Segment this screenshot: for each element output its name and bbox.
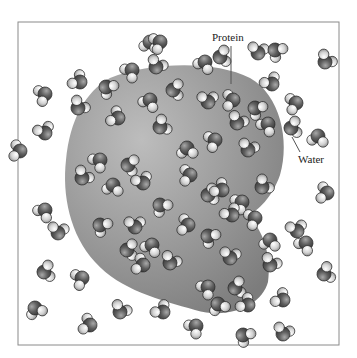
hydrogen-atom — [270, 241, 280, 251]
hydrogen-atom — [48, 222, 58, 232]
hydrogen-atom — [129, 155, 139, 165]
water-label: Water — [298, 153, 324, 165]
hydrogen-atom — [177, 225, 187, 235]
protein-hydration-diagram: Protein Water — [0, 0, 357, 358]
hydrogen-atom — [316, 193, 326, 203]
hydrogen-atom — [248, 42, 258, 52]
hydrogen-atom — [220, 247, 230, 257]
hydrogen-atom — [113, 186, 123, 196]
hydrogen-atom — [318, 137, 328, 147]
hydrogen-atom — [9, 151, 19, 161]
protein-label: Protein — [212, 31, 244, 43]
